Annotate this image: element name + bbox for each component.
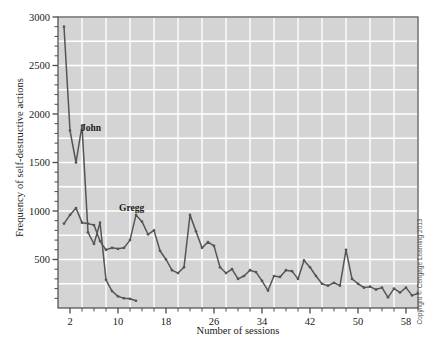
svg-text:2500: 2500 <box>29 60 50 71</box>
copyright-notice: Copyright © Cengage Learning 2013 <box>416 202 423 342</box>
series-label-john: John <box>81 123 101 133</box>
y-axis-title: Frequency of self-destructive actions <box>14 43 25 273</box>
chart-figure: 210182634425058 50010001500200025003000 … <box>0 0 444 345</box>
svg-text:1500: 1500 <box>29 157 50 168</box>
svg-text:2000: 2000 <box>29 109 50 120</box>
svg-text:500: 500 <box>34 254 50 265</box>
y-axis-tick-labels: 50010001500200025003000 <box>29 12 50 266</box>
series-label-gregg: Gregg <box>119 203 144 213</box>
x-axis-title: Number of sessions <box>58 325 418 336</box>
line-chart-plot: 210182634425058 50010001500200025003000 <box>0 0 444 345</box>
svg-text:1000: 1000 <box>29 206 50 217</box>
svg-text:3000: 3000 <box>29 12 50 23</box>
